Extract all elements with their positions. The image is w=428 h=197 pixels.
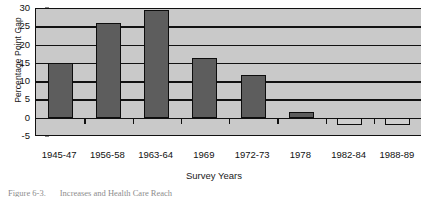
y-axis-tick-label: 30 (19, 3, 30, 13)
bar (289, 112, 314, 117)
y-axis-tick-label: 10 (19, 76, 30, 86)
y-axis-tick-labels: -5051015202530 (14, 8, 30, 136)
bar-series (36, 8, 421, 136)
y-axis-tick-label: -5 (22, 131, 30, 141)
x-axis-category-label: 1978 (290, 150, 311, 160)
plot-bottom-border (36, 135, 421, 136)
x-axis-category-label: 1972-73 (235, 150, 270, 160)
bar (96, 23, 121, 118)
y-axis-tick-label: 25 (19, 22, 30, 32)
x-axis-tick-mark (326, 118, 327, 124)
bar (192, 58, 217, 118)
y-axis-tick-label: 0 (25, 113, 30, 123)
bar (241, 75, 266, 118)
x-axis-tick-mark (229, 118, 230, 124)
y-axis-tick-label: 15 (19, 58, 30, 68)
x-axis-tick-mark (374, 118, 375, 124)
x-axis-tick-mark (277, 118, 278, 124)
figure-caption: Figure 6-3.Increases and Health Care Rea… (8, 188, 428, 197)
x-axis-category-label: 1956-58 (90, 150, 125, 160)
bar (385, 118, 410, 125)
figure-caption-text: Increases and Health Care Reach (60, 188, 172, 197)
x-axis-tick-mark (181, 118, 182, 124)
x-axis-title: Survey Years (0, 170, 428, 181)
x-axis-category-label: 1963-64 (138, 150, 173, 160)
x-axis-category-label: 1969 (193, 150, 214, 160)
x-axis-category-label: 1945-47 (42, 150, 77, 160)
x-axis-category-labels: 1945-471956-581963-6419691972-7319781982… (35, 150, 421, 164)
x-axis-category-label: 1988-89 (379, 150, 414, 160)
figure-caption-number: Figure 6-3. (8, 188, 46, 197)
x-axis-tick-mark (84, 118, 85, 124)
y-axis-tick-label: 20 (19, 40, 30, 50)
y-axis-tick-label: 5 (25, 95, 30, 105)
x-axis-category-label: 1982-84 (331, 150, 366, 160)
plot-area (35, 8, 421, 136)
bar (144, 10, 169, 118)
bar-chart-figure: Percentage Point Gap -5051015202530 1945… (0, 0, 428, 197)
bar (48, 63, 73, 118)
x-axis-tick-mark (133, 118, 134, 124)
bar (337, 118, 362, 125)
